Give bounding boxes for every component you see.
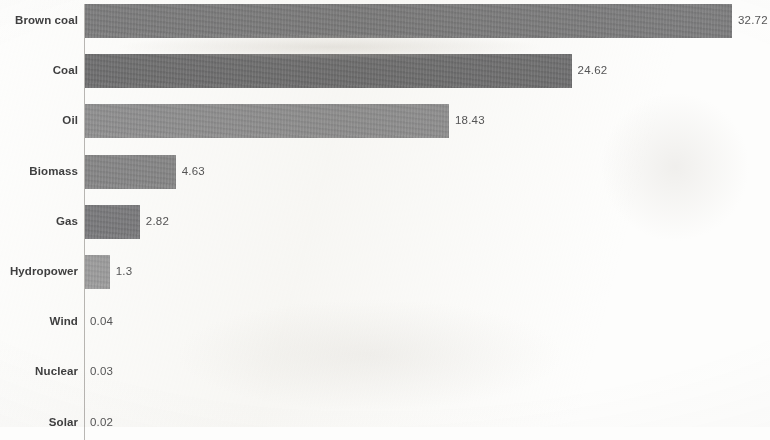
category-label: Hydropower (10, 266, 78, 278)
bar-value-label: 1.3 (116, 266, 133, 278)
bar-value-label: 24.62 (578, 65, 608, 77)
bar-row: Coal24.62 (0, 54, 770, 88)
category-label: Wind (50, 316, 78, 328)
category-axis-line (84, 4, 85, 440)
bar (84, 4, 732, 38)
bar-value-label: 0.02 (90, 417, 113, 429)
bar-value-label: 18.43 (455, 115, 485, 127)
bar (84, 104, 449, 138)
bar-row: Wind0.04 (0, 305, 770, 339)
bar-value-label: 2.82 (146, 216, 169, 228)
category-label: Biomass (29, 166, 78, 178)
bar-value-label: 32.72 (738, 15, 768, 27)
bar-row: Gas2.82 (0, 205, 770, 239)
bar-row: Hydropower1.3 (0, 255, 770, 289)
category-label: Oil (62, 115, 78, 127)
bar-row: Nuclear0.03 (0, 355, 770, 389)
bar-row: Biomass4.63 (0, 155, 770, 189)
bar-value-label: 0.04 (90, 316, 113, 328)
bar (84, 155, 176, 189)
bar-value-label: 0.03 (90, 366, 113, 378)
bar-row: Solar0.02 (0, 406, 770, 440)
bar (84, 54, 572, 88)
bar (84, 255, 110, 289)
category-label: Brown coal (15, 15, 78, 27)
category-label: Nuclear (35, 366, 78, 378)
category-label: Gas (56, 216, 78, 228)
category-label: Solar (49, 417, 78, 429)
bar-value-label: 4.63 (182, 166, 205, 178)
bar-row: Oil18.43 (0, 104, 770, 138)
category-label: Coal (53, 65, 78, 77)
bar (84, 205, 140, 239)
bar-row: Brown coal32.72 (0, 4, 770, 38)
